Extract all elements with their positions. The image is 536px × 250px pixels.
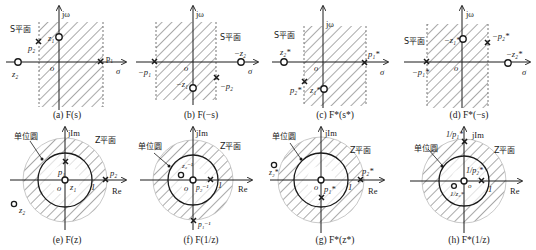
zero-z2-label: −z₂*: [506, 50, 522, 59]
pole-p1-label: p₁: [106, 54, 113, 63]
zero-z2-label: −z₂: [234, 49, 246, 58]
zero-z2-label: 1/z₂*: [450, 191, 464, 198]
pole-p1-label: −p₁: [138, 68, 151, 77]
pole-p1-label: p₁*: [368, 50, 379, 59]
axis-jim-label: jIm: [325, 129, 337, 138]
panel-c-fconj-sconj: jω σ S平面 o z₂* p₁* p₂* z₁* (c) F*(s*): [268, 0, 402, 125]
zero-z2-label: z₂*: [269, 169, 278, 177]
zero-z2-label: z₂: [12, 70, 18, 79]
origin-label: o: [314, 64, 318, 73]
caption-a: (a) F(s): [0, 110, 134, 120]
origin-label: o: [468, 183, 472, 190]
pole-p1-label: p₁⁻¹: [198, 221, 211, 229]
caption-e: (e) F(z): [0, 235, 134, 245]
caption-b: (b) F(−s): [134, 110, 268, 120]
axis-sigma-label: σ: [522, 68, 526, 77]
pole-p2-label: 1/p₂*: [466, 167, 483, 175]
panel-b-f-minus-s: jω σ S平面 o −p₁ −z₂ −z₁ −p₂ (b) F(−s): [134, 0, 268, 125]
axis-re-label: Re: [368, 187, 377, 196]
origin-label: o: [184, 64, 188, 73]
pole-p2-label: p₂*: [290, 86, 301, 95]
axis-sigma-label: σ: [248, 67, 252, 76]
s-plane-label: S平面: [404, 38, 425, 46]
unit-one-label: 1: [488, 185, 492, 194]
caption-d: (d) F*(−s): [402, 110, 536, 120]
axis-sigma-label: σ: [116, 67, 120, 76]
caption-f: (f) F(1/z): [134, 235, 268, 245]
panel-g-fconj-zconj: jIm Re 单位圆 Z平面 o 1 z₂* p₁* p₂* (g) F*(z*…: [268, 125, 402, 250]
axis-jim-label: jIm: [472, 131, 484, 140]
axis-jim-label: jIm: [196, 129, 208, 138]
unit-one-label: 1: [348, 183, 352, 192]
pole-p1-label: p₁: [58, 168, 65, 177]
axis-jw-label: jω: [326, 20, 334, 29]
axis-jw-label: jω: [62, 10, 70, 19]
unit-one-label: 1: [91, 183, 95, 192]
axis-jw-label: jω: [196, 10, 204, 19]
pole-p2-label: p₂⁻¹: [196, 184, 209, 192]
zero-z1-label: z₁*: [310, 86, 321, 95]
unit-one-label: 1: [218, 181, 222, 190]
panel-d-fconj-minus-s: jω σ S平面 o −z₁* −p₂* −z₂* −p₁* (d) F*(−s…: [402, 0, 536, 125]
axis-jim-label: jIm: [68, 129, 80, 138]
caption-c: (c) F*(s*): [268, 110, 402, 120]
zero-z1-label: −z₁*: [444, 36, 460, 45]
zero-z1-label: −z₁: [176, 80, 188, 89]
unit-circle-label: 单位圆: [414, 145, 438, 153]
pole-p2-label: −p₂*: [492, 32, 509, 41]
origin-label: o: [184, 184, 188, 193]
origin-label: o: [57, 184, 61, 193]
z-plane-label: Z平面: [95, 137, 116, 145]
unit-circle-label: 单位圆: [138, 143, 162, 151]
caption-g: (g) F*(z*): [268, 235, 402, 245]
z-plane-plot: [268, 125, 402, 235]
origin-label: o: [454, 64, 458, 73]
axis-re-label: Re: [510, 187, 519, 196]
s-plane-label: S平面: [220, 34, 241, 42]
axis-sigma-label: σ: [380, 68, 384, 77]
pole-p1-label: p₁*: [324, 185, 335, 194]
z-plane-plot: [402, 125, 536, 235]
axis-jw-label: jω: [466, 10, 474, 19]
pole-p1-label: 1/p₁*: [446, 131, 463, 139]
s-plane-label: S平面: [10, 26, 31, 34]
pole-p2-label: p₂: [28, 44, 35, 53]
panel-f-f-inv-z: jIm Re 单位圆 Z平面 o 1 z₂⁻¹ p₂⁻¹ p₁⁻¹ (f) F(…: [134, 125, 268, 250]
pole-p1-label: −p₁*: [412, 68, 429, 77]
s-plane-label: S平面: [274, 32, 295, 40]
z-plane-label: Z平面: [494, 147, 515, 155]
zero-z1-label: z₁: [48, 34, 54, 43]
panel-e-fz: jIm Re 单位圆 Z平面 o 1 p₁ z₁ p₂ z₂ (e) F(z): [0, 125, 134, 250]
zero-z2-label: z₂: [19, 206, 25, 215]
zero-z1-label: z₁: [70, 183, 76, 192]
pole-p2-label: p₂: [110, 169, 117, 178]
pole-p2-label: −p₂: [220, 82, 233, 91]
origin-label: o: [50, 64, 54, 73]
z-plane-label: Z平面: [350, 147, 371, 155]
panel-a-fs: jω σ S平面 o p₂ z₁ p₁ z₂ (a) F(s): [0, 0, 134, 125]
axis-re-label: Re: [238, 185, 247, 194]
unit-circle-label: 单位圆: [272, 133, 296, 141]
zero-z2-label: z₂⁻¹: [182, 163, 193, 170]
z-plane-label: Z平面: [220, 143, 241, 151]
axis-re-label: Re: [112, 187, 121, 196]
zero-z2-label: z₂*: [280, 48, 291, 57]
unit-circle-label: 单位圆: [14, 133, 38, 141]
panel-h-fconj-inv-z: jIm Re 单位圆 Z平面 o 1 1/p₁* 1/p₂* 1/z₂* (h)…: [402, 125, 536, 250]
caption-h: (h) F*(1/z): [402, 235, 536, 245]
origin-label: o: [314, 183, 318, 192]
pole-p2-label: p₂*: [362, 167, 373, 176]
